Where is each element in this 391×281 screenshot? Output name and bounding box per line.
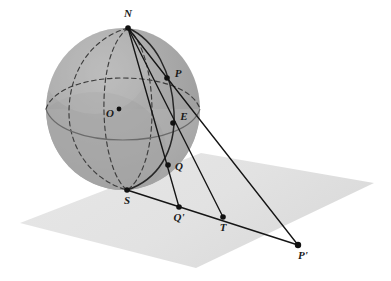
label-N: N <box>123 7 133 19</box>
label-Q: Q <box>175 160 183 172</box>
point-Q-prime <box>176 204 182 210</box>
label-O: O <box>106 107 114 119</box>
point-P <box>164 75 170 81</box>
point-P-prime <box>295 242 301 248</box>
label-P: P <box>175 67 182 79</box>
label-P-prime: P' <box>298 249 308 261</box>
point-S <box>124 187 130 193</box>
point-Q <box>165 162 171 168</box>
label-S: S <box>124 194 130 206</box>
diagram-canvas: N P O E Q S Q' T P' <box>0 0 391 281</box>
point-E <box>170 120 176 126</box>
point-N <box>125 25 131 31</box>
stereographic-projection-figure: N P O E Q S Q' T P' <box>0 0 391 281</box>
label-E: E <box>179 110 187 122</box>
point-T <box>220 214 226 220</box>
point-O <box>117 107 122 112</box>
label-Q-prime: Q' <box>174 211 185 223</box>
